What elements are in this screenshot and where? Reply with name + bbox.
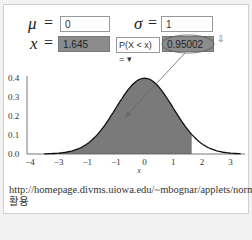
x-tick-label: 2: [200, 157, 205, 167]
y-tick-label: 0.0: [8, 149, 20, 159]
x-tick-label: −4: [25, 157, 35, 167]
y-tick-label: 0.3: [8, 92, 20, 102]
x-tick-label: 3: [228, 157, 233, 167]
highlight-ellipse: [162, 35, 214, 53]
shaded-area: [44, 78, 191, 154]
x-tick-label: −1: [111, 157, 121, 167]
y-tick-label: 0.1: [8, 130, 19, 140]
y-tick-label: 0.2: [8, 111, 19, 121]
x-axis-label: x: [136, 166, 141, 175]
x-tick-label: 0: [142, 157, 147, 167]
x-tick-label: 1: [171, 157, 176, 167]
source-caption: http://homepage.divms.uiowa.edu/~mbognar…: [9, 184, 244, 208]
x-tick-label: −1: [83, 157, 93, 167]
y-tick-label: 0.4: [8, 73, 20, 83]
x-tick-label: −3: [54, 157, 64, 167]
